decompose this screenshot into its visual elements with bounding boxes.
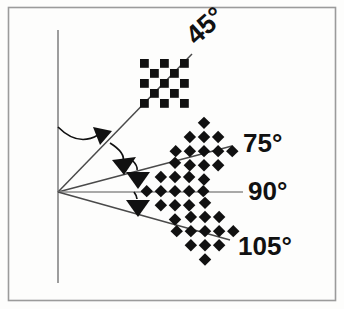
angle-label-105: 105° (238, 231, 292, 261)
pattern-cell (140, 99, 149, 108)
pattern-cell (180, 59, 189, 68)
pattern-cell (180, 79, 189, 88)
pattern-cell (140, 79, 149, 88)
pattern-cell (170, 89, 179, 98)
pattern-cell (140, 59, 149, 68)
pattern-cell (160, 99, 169, 108)
pattern-cell (180, 99, 189, 108)
pattern-cell (160, 79, 169, 88)
angle-label-75: 75° (243, 128, 282, 158)
pattern-cell (170, 69, 179, 78)
figure-canvas: 45° 75° 90° 105° (0, 0, 344, 309)
checkerboard-45 (140, 59, 189, 108)
pattern-cell (150, 69, 159, 78)
angle-label-90: 90° (248, 176, 287, 206)
pattern-cell (150, 89, 159, 98)
angle-diagram: 45° 75° 90° 105° (0, 0, 344, 309)
pattern-cell (160, 59, 169, 68)
